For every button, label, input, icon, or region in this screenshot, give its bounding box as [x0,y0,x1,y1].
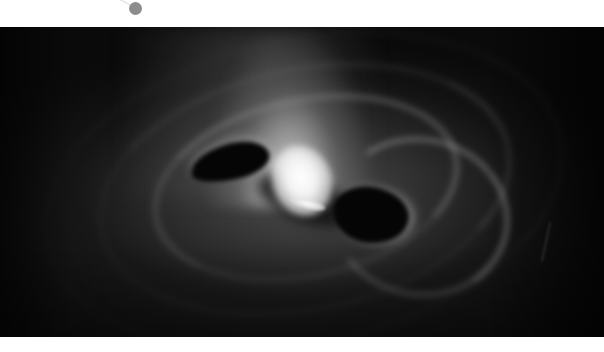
middle-spiral-ring [74,27,536,337]
left-shadow-lobe [187,135,273,189]
right-lobe-ring [317,123,522,312]
inner-spiral-ring [134,67,477,310]
outer-spiral-ring [14,27,594,337]
bottom-margin [0,337,604,352]
accretion-disk-image: Grayscale rendering of a swirling accret… [0,27,604,337]
image-alt-text: Grayscale rendering of a swirling accret… [0,27,1,28]
faint-streak [541,222,551,262]
central-shadow [250,161,359,237]
disk-glow [0,27,604,337]
jet-haze [120,27,380,197]
top-margin [0,0,604,27]
right-shadow-lobe [330,183,411,247]
vignette [0,27,604,337]
dot-marker-icon [129,2,142,15]
bright-core [261,137,342,225]
core-flare [289,195,326,214]
jet-plume [190,27,390,207]
